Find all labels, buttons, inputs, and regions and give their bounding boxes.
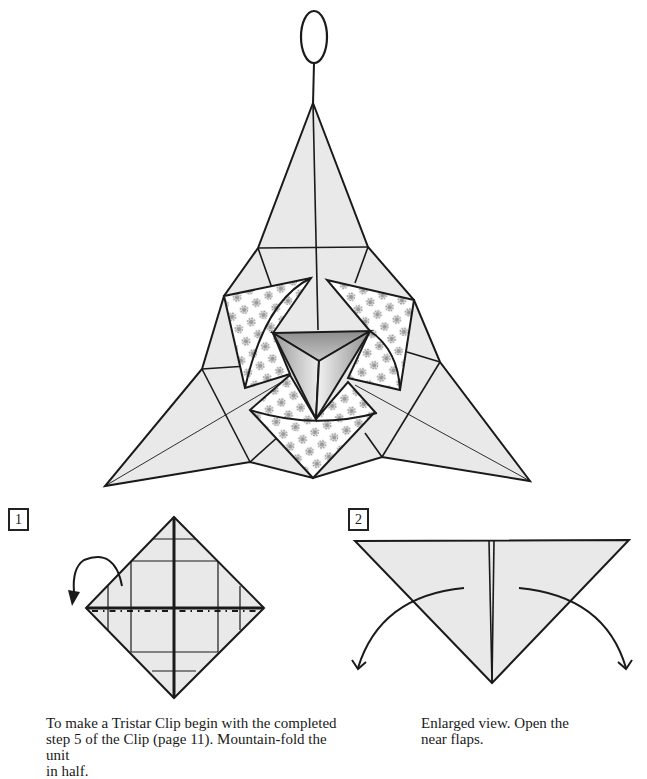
step-2-badge: 2	[348, 508, 369, 531]
hanging-loop-icon	[301, 11, 327, 104]
step-2-diagram	[352, 540, 632, 683]
step-1-badge: 1	[8, 508, 29, 531]
step-2-caption: Enlarged view. Open the near flaps.	[421, 715, 621, 747]
tristar-clip-model	[105, 11, 530, 486]
step-1-caption: To make a Tristar Clip begin with the co…	[46, 715, 346, 779]
step-1-diagram	[68, 517, 264, 698]
